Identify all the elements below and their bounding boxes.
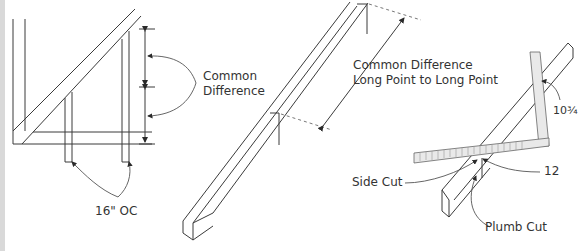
long-point-label-line2: Long Point to Long Point <box>353 73 498 88</box>
jack-rafter-panel <box>183 2 421 240</box>
diagram-canvas <box>0 0 581 251</box>
common-difference-label-line2: Difference <box>203 84 265 99</box>
tongue-value-label: 10¾ <box>553 103 578 118</box>
rafter-layout-panel <box>13 9 196 197</box>
common-difference-label-line1: Common <box>203 69 257 84</box>
plumb-cut-label: Plumb Cut <box>485 220 547 235</box>
blade-value-label: 12 <box>544 164 559 179</box>
side-cut-label: Side Cut <box>352 175 402 190</box>
spacing-label: 16" OC <box>95 204 137 219</box>
long-point-label-line1: Common Difference <box>353 58 473 73</box>
